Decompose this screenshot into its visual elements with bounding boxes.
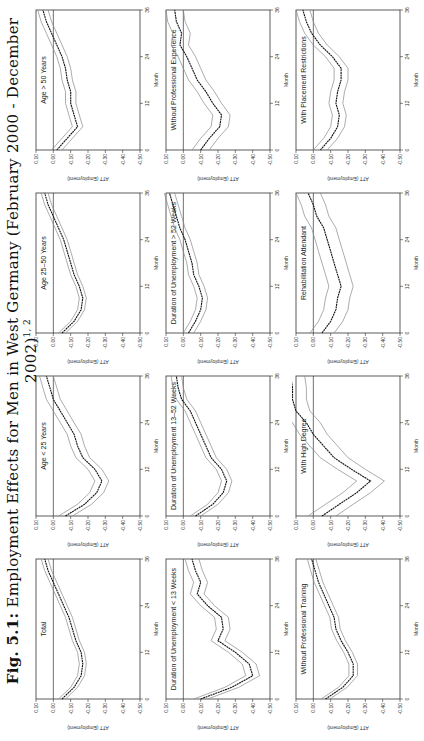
y-tick-label: -0.40	[380, 154, 386, 166]
y-tick-label: 0.10	[163, 154, 169, 164]
x-tick-label: 24	[404, 237, 410, 243]
y-tick-label: 0.10	[163, 703, 169, 713]
y-axis-label: ATT (Employment)	[327, 359, 369, 365]
y-tick-label: -0.20	[345, 703, 351, 715]
y-axis-label: ATT (Employment)	[67, 542, 109, 548]
x-tick-label: 36	[404, 190, 410, 196]
ci-lower-line	[175, 193, 208, 333]
chart-panel: 0.100.00-0.10-0.20-0.30-0.40-0.500122436…	[162, 187, 290, 367]
y-tick-label: -0.20	[215, 154, 221, 166]
y-tick-label: -0.40	[380, 520, 386, 532]
chart-panel: 0.100.00-0.10-0.20-0.30-0.40-0.500122436…	[32, 553, 160, 733]
x-tick-label: 36	[274, 190, 280, 196]
y-tick-label: -0.40	[380, 703, 386, 715]
y-axis-label: ATT (Employment)	[67, 176, 109, 182]
ci-lower-line	[305, 376, 385, 516]
y-tick-label: -0.10	[198, 520, 204, 532]
x-tick-label: 24	[404, 54, 410, 60]
y-tick-label: -0.50	[397, 520, 403, 532]
chart-panel: 0.100.00-0.10-0.20-0.30-0.40-0.500122436…	[162, 4, 290, 184]
y-axis-label: ATT (Employment)	[197, 359, 239, 365]
x-tick-label: 24	[144, 54, 150, 60]
ci-lower-line	[183, 10, 230, 150]
x-tick-label: 24	[404, 603, 410, 609]
plot-frame	[296, 376, 400, 516]
x-tick-label: 24	[274, 603, 280, 609]
y-tick-label: 0.10	[293, 154, 299, 164]
chart-panel: 0.100.00-0.10-0.20-0.30-0.40-0.500122436…	[162, 553, 290, 733]
y-tick-label: -0.40	[250, 154, 256, 166]
x-tick-label: 0	[404, 697, 410, 700]
ci-upper-line	[185, 559, 246, 699]
ci-lower-line	[199, 559, 260, 699]
y-tick-label: -0.10	[68, 154, 74, 166]
chart-title: With Placement Restrictions	[300, 36, 307, 124]
y-tick-label: -0.50	[267, 703, 273, 715]
ci-upper-line	[40, 376, 95, 516]
y-tick-label: -0.30	[232, 703, 238, 715]
y-tick-label: 0.00	[50, 337, 56, 347]
att-line	[176, 376, 226, 516]
chart-panel: 0.100.00-0.10-0.20-0.30-0.40-0.500122436…	[292, 553, 420, 733]
y-tick-label: -0.30	[102, 154, 108, 166]
figure-footnote-marks: 1, 2	[22, 319, 32, 337]
y-tick-label: -0.40	[120, 337, 126, 349]
y-axis-label: ATT (Employment)	[327, 725, 369, 731]
att-line	[46, 376, 102, 516]
x-tick-label: 36	[274, 556, 280, 562]
x-axis-label: Month	[153, 73, 159, 87]
x-tick-label: 0	[144, 331, 150, 334]
y-tick-label: -0.50	[397, 703, 403, 715]
y-tick-label: -0.40	[120, 520, 126, 532]
att-line	[45, 193, 83, 333]
y-tick-label: -0.10	[198, 703, 204, 715]
x-axis-label: Month	[413, 256, 419, 270]
ci-lower-line	[53, 376, 109, 516]
x-axis-label: Month	[153, 622, 159, 636]
chart-panel: 0.100.00-0.10-0.20-0.30-0.40-0.500122436…	[292, 187, 420, 367]
plot-frame	[166, 376, 270, 516]
x-tick-label: 24	[144, 237, 150, 243]
y-tick-label: 0.00	[310, 703, 316, 713]
att-line	[45, 559, 83, 699]
y-tick-label: -0.40	[120, 154, 126, 166]
y-tick-label: 0.00	[180, 154, 186, 164]
figure-label: Fig. 5.1:	[4, 613, 22, 685]
y-tick-label: -0.20	[85, 520, 91, 532]
y-axis-label: ATT (Employment)	[327, 542, 369, 548]
y-tick-label: -0.20	[345, 337, 351, 349]
att-line	[175, 10, 222, 150]
x-tick-label: 12	[404, 649, 410, 655]
y-tick-label: 0.00	[180, 703, 186, 713]
y-tick-label: -0.50	[137, 520, 143, 532]
x-tick-label: 36	[274, 7, 280, 13]
y-tick-label: -0.10	[198, 154, 204, 166]
x-tick-label: 36	[404, 373, 410, 379]
rotated-page: Fig. 5.1: Employment Effects for Men in …	[0, 0, 424, 741]
y-tick-label: -0.10	[68, 703, 74, 715]
x-tick-label: 0	[274, 514, 280, 517]
y-tick-label: -0.10	[68, 520, 74, 532]
x-axis-label: Month	[283, 256, 289, 270]
x-tick-label: 0	[144, 697, 150, 700]
y-tick-label: -0.30	[362, 520, 368, 532]
y-tick-label: 0.10	[293, 520, 299, 530]
x-tick-label: 0	[404, 514, 410, 517]
y-tick-label: -0.10	[328, 703, 334, 715]
chart-panel: 0.100.00-0.10-0.20-0.30-0.40-0.500122436…	[32, 187, 160, 367]
x-tick-label: 36	[404, 556, 410, 562]
y-tick-label: -0.20	[85, 154, 91, 166]
y-axis-label: ATT (Employment)	[327, 176, 369, 182]
x-tick-label: 36	[144, 190, 150, 196]
y-tick-label: 0.00	[310, 520, 316, 530]
x-axis-label: Month	[283, 73, 289, 87]
x-tick-label: 36	[144, 373, 150, 379]
chart-panel: 0.100.00-0.10-0.20-0.30-0.40-0.500122436…	[292, 4, 420, 184]
x-tick-label: 12	[144, 100, 150, 106]
x-tick-label: 24	[404, 420, 410, 426]
x-tick-label: 12	[274, 100, 280, 106]
x-tick-label: 12	[274, 466, 280, 472]
x-tick-label: 36	[144, 556, 150, 562]
x-tick-label: 12	[404, 100, 410, 106]
x-tick-label: 0	[274, 331, 280, 334]
